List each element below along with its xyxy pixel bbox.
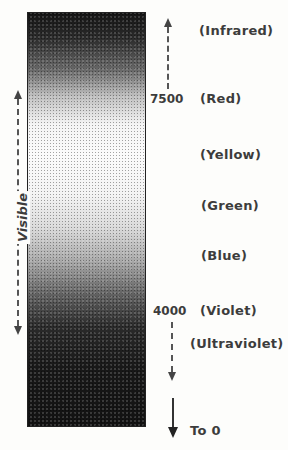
ultraviolet-dashed-line <box>171 322 173 372</box>
to-zero-line <box>172 398 174 428</box>
visible-label: Visible <box>15 191 30 244</box>
visible-arrow-up-icon <box>14 90 22 99</box>
marker-value-4000: 4000 <box>153 304 186 318</box>
band-label-yellow: (Yellow) <box>200 147 261 162</box>
to-zero-label: To 0 <box>190 423 221 438</box>
marker-value-7500: 7500 <box>150 92 183 106</box>
band-label-ultraviolet: (Ultraviolet) <box>190 336 284 351</box>
ultraviolet-arrow-down-icon <box>168 372 176 381</box>
infrared-arrow-up-icon <box>164 18 172 27</box>
band-label-blue: (Blue) <box>201 248 247 263</box>
to-zero-arrow-down-icon <box>168 427 178 438</box>
band-label-violet: (Violet) <box>200 303 257 318</box>
band-label-green: (Green) <box>201 198 259 213</box>
spectrum-bar <box>27 12 146 427</box>
band-label-infrared: (Infrared) <box>199 23 273 38</box>
visible-arrow-down-icon <box>14 326 22 335</box>
band-label-red: (Red) <box>200 91 242 106</box>
infrared-dashed-line <box>167 27 169 89</box>
